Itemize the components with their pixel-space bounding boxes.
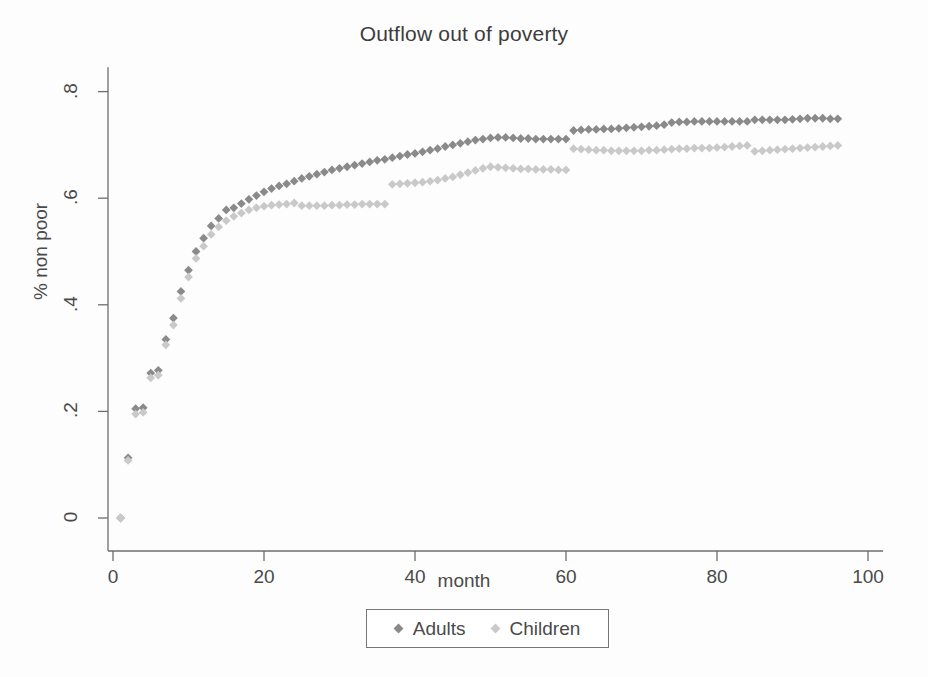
data-point: [569, 144, 578, 153]
data-point: [750, 115, 759, 124]
data-point: [667, 118, 676, 127]
data-point: [501, 163, 510, 172]
data-point: [403, 150, 412, 159]
x-tick-label: 100: [852, 566, 884, 588]
data-point: [758, 146, 767, 155]
data-point: [698, 144, 707, 153]
series-adults: [116, 114, 842, 523]
data-point: [396, 179, 405, 188]
data-point: [463, 168, 472, 177]
data-point: [562, 135, 571, 144]
data-point: [547, 135, 556, 144]
legend-label-children: Children: [510, 618, 581, 640]
data-point: [796, 114, 805, 123]
data-point: [441, 142, 450, 151]
data-point: [411, 178, 420, 187]
data-point: [833, 114, 842, 123]
data-point: [448, 141, 457, 150]
data-point: [788, 115, 797, 124]
data-point: [781, 115, 790, 124]
data-point: [531, 135, 540, 144]
data-point: [577, 126, 586, 135]
data-point: [803, 114, 812, 123]
data-point: [116, 514, 125, 523]
data-point: [494, 133, 503, 142]
data-point: [463, 137, 472, 146]
data-point: [524, 134, 533, 143]
data-point: [199, 234, 208, 243]
data-point: [154, 371, 163, 380]
data-point: [433, 176, 442, 185]
data-point: [614, 124, 623, 133]
data-point: [622, 146, 631, 155]
data-point: [486, 162, 495, 171]
data-point: [222, 216, 231, 225]
data-point: [388, 153, 397, 162]
data-point: [343, 162, 352, 171]
data-point: [599, 125, 608, 134]
data-point: [418, 147, 427, 156]
data-point: [516, 134, 525, 143]
data-point: [539, 135, 548, 144]
data-point: [192, 254, 201, 263]
data-point: [652, 121, 661, 130]
data-point: [705, 117, 714, 126]
data-point: [418, 178, 427, 187]
data-point: [479, 164, 488, 173]
data-point: [562, 166, 571, 175]
data-point: [682, 144, 691, 153]
data-point: [328, 166, 337, 175]
data-point: [350, 200, 359, 209]
data-point: [245, 206, 254, 215]
data-point: [373, 156, 382, 165]
legend-item-children[interactable]: Children: [492, 618, 581, 640]
x-tick-label: 40: [404, 566, 425, 588]
chart-legend: Adults Children: [366, 609, 609, 648]
data-point: [622, 123, 631, 132]
data-point: [365, 158, 374, 167]
y-axis-title: % non poor: [30, 203, 52, 300]
data-point: [169, 321, 178, 330]
data-point: [826, 142, 835, 151]
data-point: [320, 201, 329, 210]
data-point: [765, 146, 774, 155]
data-point: [426, 146, 435, 155]
data-point: [690, 144, 699, 153]
data-point: [290, 199, 299, 208]
data-point: [335, 201, 344, 210]
data-point: [531, 165, 540, 174]
data-point: [607, 125, 616, 134]
legend-item-adults[interactable]: Adults: [395, 618, 466, 640]
data-point: [177, 294, 186, 303]
data-point: [637, 122, 646, 131]
x-tick-label: 0: [108, 566, 119, 588]
data-point: [358, 159, 367, 168]
data-point: [682, 118, 691, 127]
data-point: [743, 141, 752, 150]
data-point: [494, 163, 503, 172]
data-point: [312, 201, 321, 210]
data-point: [184, 273, 193, 282]
data-point: [630, 146, 639, 155]
data-point: [441, 174, 450, 183]
data-point: [411, 149, 420, 158]
data-point: [403, 179, 412, 188]
data-point: [645, 146, 654, 155]
data-point: [630, 123, 639, 132]
data-point: [373, 200, 382, 209]
y-tick-label: .4: [60, 284, 82, 324]
legend-label-adults: Adults: [413, 618, 466, 640]
data-point: [614, 146, 623, 155]
data-point: [320, 168, 329, 177]
data-point: [660, 120, 669, 129]
data-point: [833, 141, 842, 150]
y-tick-label: 0: [60, 497, 82, 537]
data-point: [396, 152, 405, 161]
data-point: [161, 340, 170, 349]
data-point: [765, 115, 774, 124]
y-tick-label: .6: [60, 177, 82, 217]
data-point: [433, 144, 442, 153]
data-point: [222, 206, 231, 215]
data-point: [758, 115, 767, 124]
x-tick-label: 60: [555, 566, 576, 588]
